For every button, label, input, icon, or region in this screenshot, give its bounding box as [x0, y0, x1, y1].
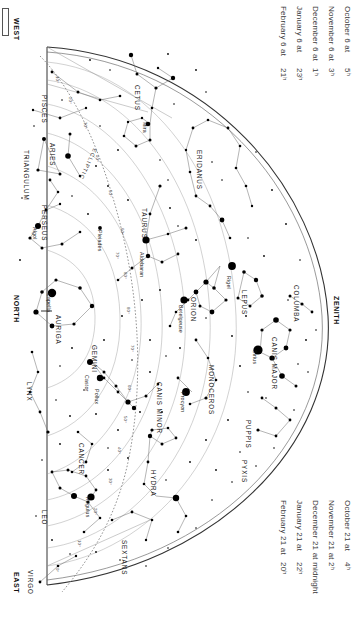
constellation-label: ORION	[190, 297, 197, 322]
star-label: Algol	[32, 227, 38, 240]
direction-label-zenith: ZENITH	[333, 296, 340, 325]
star-label: Sirius	[252, 350, 258, 364]
constellation-label: COLUMBA	[293, 285, 300, 322]
star-label: Rigel	[226, 276, 232, 289]
bottom-epoch-date: February 21 at	[279, 500, 288, 555]
altitude-label: 10°	[55, 76, 60, 83]
bottom-epoch-date: December 21 at midnight	[311, 500, 320, 594]
star-label: Betelgeuse	[178, 305, 184, 333]
top-epoch-time: 23ʰ	[295, 68, 304, 81]
constellation-label: LEO	[41, 510, 48, 525]
star-rigel	[228, 262, 236, 270]
top-epoch-date: January 6 at	[295, 6, 304, 52]
altitude-label: 20°	[93, 508, 98, 515]
altitude-label: 10°	[77, 540, 82, 547]
altitude-label: 40°	[95, 155, 100, 162]
stars-layer	[19, 53, 317, 584]
constellation-label: VIRGO	[27, 570, 34, 595]
constellation-label: HYDRA	[150, 470, 157, 497]
constellation-label: PUPPIS	[245, 420, 252, 449]
constellation-label: ERIDANUS	[196, 150, 203, 190]
altitude-label: 80°	[126, 307, 131, 314]
constellation-label: LEPUS	[241, 290, 248, 315]
top-epoch-date: December 6 at	[311, 6, 320, 61]
direction-label-north: NORTH	[13, 295, 20, 323]
star-label: Pleiades	[97, 230, 103, 252]
top-epoch-date: November 6 at	[327, 6, 336, 61]
bottom-epoch-date: January 21 at	[295, 500, 304, 551]
direction-label-east: EAST	[13, 572, 20, 593]
constellation-label: CANIS MAJOR	[271, 337, 278, 390]
altitude-label: 20°	[68, 97, 73, 104]
altitude-label: 70°	[115, 252, 120, 259]
constellation-label: TRIANGULUM	[23, 150, 30, 201]
altitude-label: 70°	[130, 345, 135, 352]
star-label: Procyon	[180, 392, 186, 412]
top-epoch-time: 3ʰ	[327, 68, 336, 76]
constellation-label: SEXTANS	[121, 540, 128, 575]
constellation-label: GEMINI	[91, 345, 98, 373]
star-label: Capella	[46, 293, 52, 312]
constellation-label: CANIS MINOR	[156, 382, 163, 434]
star-pollux	[97, 375, 103, 381]
altitude-label: 30°	[108, 478, 113, 485]
bottom-epoch-time: 20ʰ	[279, 562, 288, 575]
altitude-label: 30°	[83, 122, 88, 129]
star-chart-root: WEST NORTH EAST ZENITH ECLIPTIC October …	[0, 0, 359, 623]
constellation-label: TAURUS	[141, 208, 148, 239]
altitude-label: 60°	[120, 228, 125, 235]
star-label: Mira	[142, 122, 148, 133]
top-epoch-date: February 6 at	[279, 6, 288, 56]
star-label: Regulus	[85, 497, 91, 517]
top-epoch-time: 21ʰ	[279, 68, 288, 81]
altitude-label: 40°	[117, 447, 122, 454]
altitude-circles	[47, 62, 236, 566]
top-epoch-date: October 6 at	[343, 6, 352, 52]
constellation-label: CANCER	[78, 443, 85, 475]
bottom-epoch-date: October 21 at	[343, 500, 352, 551]
altitude-label: 60°	[127, 385, 132, 392]
constellation-label: PYXIS	[241, 460, 248, 483]
constellation-label: AURIGA	[55, 315, 62, 345]
altitude-label: 80°	[123, 272, 128, 279]
bottom-epoch-time: 4ʰ	[343, 562, 352, 570]
bottom-epoch-time: 2ʰ	[327, 562, 336, 570]
constellation-label: PERSEUS	[41, 205, 48, 241]
altitude-label: 50°	[123, 416, 128, 423]
bottom-epoch-date: November 21 at	[327, 500, 336, 560]
altitude-label: 0°	[55, 568, 60, 573]
altitude-label: 50°	[108, 190, 113, 197]
constellation-label: LYNX	[26, 382, 33, 402]
constellation-label: CETUS	[134, 85, 141, 111]
star-label: Aldebaran	[139, 252, 145, 277]
constellation-label: ARIES	[49, 143, 56, 166]
bottom-epoch-time: 22ʰ	[295, 562, 304, 575]
constellation-lines	[30, 55, 312, 582]
star-label: Pollux	[94, 389, 100, 404]
star-betelgeuse	[180, 296, 187, 303]
direction-label-west: WEST	[13, 18, 20, 41]
constellation-label: MONOCEROS	[208, 365, 215, 415]
top-epoch-time: 1ʰ	[311, 68, 320, 76]
constellation-label: PISCES	[41, 95, 48, 124]
star-label: Castor	[84, 375, 90, 391]
top-epoch-time: 5ʰ	[343, 68, 352, 76]
